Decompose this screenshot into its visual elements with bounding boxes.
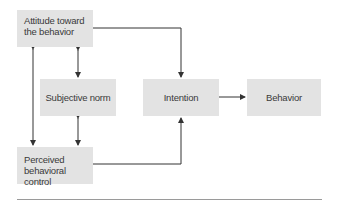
node-intention: Intention <box>143 79 219 116</box>
node-perceived-control-line2: behavioral control <box>24 165 93 187</box>
node-subjective-norm: Subjective norm <box>40 79 116 116</box>
node-behavior-label: Behavior <box>266 92 302 103</box>
node-perceived-control-line1: Perceived <box>24 154 93 165</box>
node-attitude: Attitude toward the behavior <box>17 10 93 47</box>
node-attitude-line2: the behavior <box>24 26 93 37</box>
node-subjective-norm-label: Subjective norm <box>45 92 110 103</box>
node-attitude-line1: Attitude toward <box>24 15 93 26</box>
edge-control-intention <box>93 118 181 164</box>
node-intention-label: Intention <box>164 92 199 103</box>
node-behavior: Behavior <box>247 79 321 116</box>
edge-attitude-intention <box>93 28 181 77</box>
bottom-rule-divider <box>17 199 322 200</box>
node-perceived-control: Perceived behavioral control <box>17 147 93 184</box>
